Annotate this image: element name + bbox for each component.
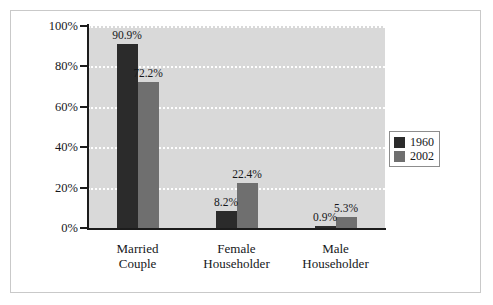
- legend-label: 1960: [410, 136, 434, 148]
- y-axis-tick-label: 20%: [4, 182, 78, 195]
- chart-legend: 19602002: [389, 131, 440, 167]
- bar-value-label: 22.4%: [224, 169, 270, 181]
- y-axis-tick: [80, 65, 88, 67]
- legend-label: 2002: [410, 150, 434, 162]
- legend-swatch-1960: [394, 137, 405, 148]
- category-label-line: Householder: [266, 256, 406, 271]
- bar-chart: 0%20%40%60%80%100% 90.9%72.2%8.2%22.4%0.…: [0, 0, 493, 305]
- x-axis-line: [87, 228, 386, 230]
- y-axis-tick-label: 60%: [4, 101, 78, 114]
- y-axis-tick: [80, 187, 88, 189]
- y-axis-line: [87, 24, 89, 230]
- gridline: [88, 26, 385, 28]
- category-label: MaleHouseholder: [266, 241, 406, 272]
- y-axis-tick: [80, 146, 88, 148]
- bar-2002-1: [138, 82, 159, 228]
- y-axis-tick: [80, 25, 88, 27]
- bar-value-label: 90.9%: [104, 30, 150, 42]
- y-axis-tick-labels: 0%20%40%60%80%100%: [0, 0, 78, 305]
- bar-1960-3: [315, 226, 336, 228]
- legend-swatch-2002: [394, 151, 405, 162]
- y-axis-tick-label: 40%: [4, 141, 78, 154]
- y-axis-tick-label: 0%: [4, 222, 78, 235]
- bar-value-label: 5.3%: [323, 203, 369, 215]
- legend-item-1960: 1960: [394, 135, 434, 149]
- y-axis-tick: [80, 227, 88, 229]
- category-label-line: Male: [266, 241, 406, 256]
- y-axis-tick-label: 100%: [4, 20, 78, 33]
- y-axis-tick: [80, 106, 88, 108]
- bar-value-label: 8.2%: [203, 197, 249, 209]
- bar-1960-2: [216, 211, 237, 228]
- legend-item-2002: 2002: [394, 149, 434, 163]
- y-axis-tick-label: 80%: [4, 60, 78, 73]
- bar-value-label: 72.2%: [125, 68, 171, 80]
